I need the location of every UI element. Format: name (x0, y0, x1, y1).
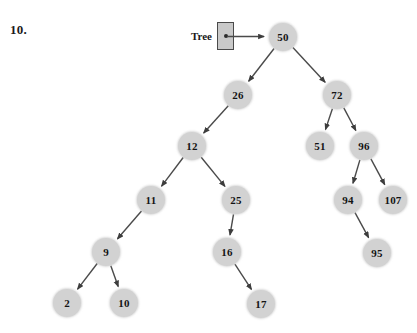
tree-node-value: 51 (314, 140, 325, 152)
tree-node: 12 (178, 132, 206, 160)
tree-edge-left (353, 160, 360, 183)
tree-node: 2 (53, 289, 81, 317)
tree-edge-left (162, 158, 184, 187)
tree-node-value: 12 (186, 140, 197, 152)
tree-node-value: 50 (277, 31, 288, 43)
tree-node-value: 107 (384, 194, 401, 206)
tree-node: 11 (137, 186, 165, 214)
tree-node: 96 (350, 132, 378, 160)
tree-node: 16 (213, 238, 241, 266)
tree-edge-left (326, 109, 333, 130)
tree-edge-left (78, 264, 98, 290)
tree-node-value: 25 (230, 194, 241, 206)
tree-node: 26 (224, 81, 252, 109)
tree-edge-right (235, 264, 252, 289)
tree-node-value: 26 (232, 89, 243, 101)
tree-node-value: 94 (342, 194, 353, 206)
tree-node-value: 9 (103, 246, 109, 258)
tree-node: 94 (334, 186, 362, 214)
tree-edge-right (371, 159, 385, 185)
tree-node: 107 (379, 186, 407, 214)
tree-node: 9 (92, 238, 120, 266)
tree-edge-right (344, 108, 356, 131)
tree-edge-left (230, 214, 234, 235)
tree-node: 50 (269, 23, 297, 51)
tree-node-value: 11 (146, 194, 157, 206)
tree-edge-left (204, 106, 229, 133)
tree-node-value: 95 (371, 247, 382, 259)
tree-edge-left (118, 211, 142, 239)
tree-node-value: 16 (221, 246, 232, 258)
tree-node: 72 (323, 81, 351, 109)
tree-node: 95 (363, 239, 391, 267)
tree-node: 17 (247, 290, 275, 318)
tree-node-value: 17 (255, 298, 266, 310)
tree-node-value: 96 (358, 140, 369, 152)
tree-edge-right (201, 157, 225, 186)
tree-edge-right (355, 213, 369, 238)
tree-diagram-page: 10. Tree 5026721251961125941079169521017 (0, 0, 417, 333)
tree-node: 51 (306, 132, 334, 160)
tree-edge-right (293, 48, 325, 83)
tree-node-value: 10 (118, 297, 129, 309)
tree-edge-right (111, 266, 118, 287)
tree-node-value: 72 (331, 89, 342, 101)
tree-node: 25 (222, 186, 250, 214)
tree-node: 10 (110, 289, 138, 317)
tree-node-value: 2 (64, 297, 70, 309)
tree-edge-left (249, 49, 274, 82)
tree-edges-layer (0, 0, 417, 333)
